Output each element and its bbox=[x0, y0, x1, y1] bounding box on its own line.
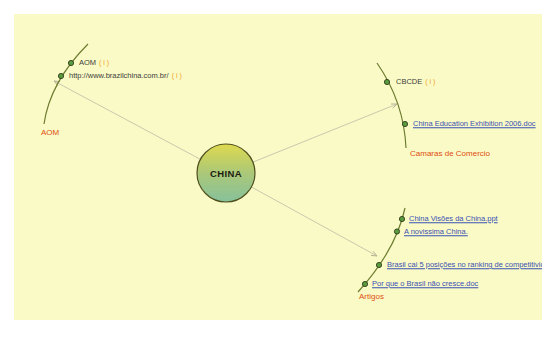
node-brazilchina-url[interactable]: http://www.brazilchina.com.br/( i ) bbox=[69, 72, 182, 80]
branch-label-artigos[interactable]: Artigos bbox=[359, 293, 384, 301]
node-aom-label[interactable]: AOM bbox=[79, 58, 96, 67]
node-aom-suffix: ( i ) bbox=[99, 59, 109, 66]
link-china-education-exhibition[interactable]: China Education Exhibition 2006.doc bbox=[413, 120, 536, 128]
node-bead-icon-por-que[interactable] bbox=[362, 281, 367, 286]
node-bead-icon-novissima[interactable] bbox=[394, 229, 399, 234]
link-novissima-china[interactable]: A novissima China. bbox=[404, 228, 468, 236]
node-bead-icon-aom[interactable] bbox=[68, 60, 73, 65]
node-cbcde-suffix: ( i ) bbox=[425, 78, 435, 85]
mind-map-page: CHINA AOM( i ) http://www.brazilchina.co… bbox=[0, 0, 559, 338]
node-brazilchina-url-label[interactable]: http://www.brazilchina.com.br/ bbox=[69, 71, 169, 80]
central-node-label[interactable]: CHINA bbox=[210, 168, 242, 179]
link-por-que-brasil-nao-cresce[interactable]: Por que o Brasil não cresce.doc bbox=[372, 280, 478, 288]
node-bead-icon-cbcde[interactable] bbox=[384, 79, 389, 84]
branch-label-camaras-de-comercio[interactable]: Camaras de Comercio bbox=[410, 150, 490, 158]
branch-label-aom[interactable]: AOM bbox=[41, 129, 59, 137]
node-aom[interactable]: AOM( i ) bbox=[79, 59, 109, 67]
link-brasil-cai-ranking[interactable]: Brasil cai 5 posições no ranking de comp… bbox=[387, 261, 542, 269]
branch-arc-camaras bbox=[377, 63, 406, 148]
node-bead-icon-brasil-cai[interactable] bbox=[376, 262, 381, 267]
branch-arc-aom bbox=[44, 44, 88, 124]
link-china-visoes[interactable]: China Visões da China.ppt bbox=[409, 215, 498, 223]
node-brazilchina-url-suffix: ( i ) bbox=[172, 72, 182, 79]
node-bead-icon-url[interactable] bbox=[58, 73, 63, 78]
node-cbcde-label[interactable]: CBCDE bbox=[396, 77, 422, 86]
node-bead-icon-china-visoes[interactable] bbox=[399, 216, 404, 221]
node-cbcde[interactable]: CBCDE( i ) bbox=[396, 78, 435, 86]
map-canvas: CHINA AOM( i ) http://www.brazilchina.co… bbox=[14, 14, 542, 320]
node-bead-icon-china-education[interactable] bbox=[402, 121, 407, 126]
